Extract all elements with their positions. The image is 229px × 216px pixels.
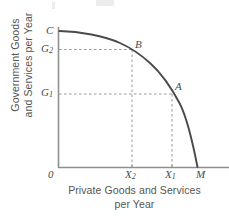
x-axis-label-line-1: Private Goods and Services [40, 184, 229, 198]
x-tick-label-x1-base: X [165, 168, 172, 180]
y-axis-label: Government Goods and Services per Year [0, 0, 44, 150]
y-tick-label-g1: G1 [41, 86, 53, 99]
ppf-chart-figure: Government Goods and Services per Year P… [0, 0, 229, 216]
x-tick-label-m: M [196, 168, 205, 180]
point-label-a: A [175, 80, 182, 92]
x-tick-label-x1-subscript: 1 [172, 172, 176, 181]
y-tick-label-g1-subscript: 1 [49, 90, 53, 99]
y-tick-label-c: C [46, 24, 53, 36]
y-tick-label-g2: G2 [41, 42, 53, 55]
ppf-curve [60, 31, 198, 167]
x-tick-label-x2-subscript: 2 [132, 172, 136, 181]
x-axis-label: Private Goods and Services per Year [40, 184, 229, 211]
x-axis-label-line-2: per Year [40, 198, 229, 212]
x-tick-label-x2-base: X [125, 168, 132, 180]
y-axis-label-line-1: Government Goods [9, 18, 22, 111]
x-tick-label-x1: X1 [165, 168, 176, 181]
y-tick-label-g2-base: G [41, 42, 49, 54]
x-tick-label-x2: X2 [125, 168, 136, 181]
y-axis-label-line-2: and Services per Year [22, 13, 35, 118]
origin-label: 0 [48, 168, 54, 180]
point-label-b: B [135, 38, 142, 50]
y-tick-label-g1-base: G [41, 86, 49, 98]
y-tick-label-g2-subscript: 2 [49, 46, 53, 55]
